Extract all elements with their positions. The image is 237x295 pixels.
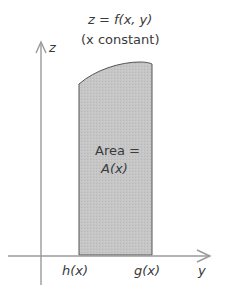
area-function-label: A(x) xyxy=(101,162,128,175)
lower-bound-label: h(x) xyxy=(62,264,88,277)
condition-label-text: (x constant) xyxy=(81,32,159,47)
z-axis-label: z xyxy=(49,41,56,54)
upper-bound-label: g(x) xyxy=(134,264,160,277)
function-label: z = f(x, y) xyxy=(88,13,152,26)
condition-label: (x constant) xyxy=(81,33,159,46)
z-axis xyxy=(36,42,46,285)
area-label: Area = xyxy=(95,144,140,157)
y-axis-label: y xyxy=(198,264,206,277)
function-label-text: z = f(x, y) xyxy=(88,12,152,27)
shaded-area-region xyxy=(79,62,152,255)
